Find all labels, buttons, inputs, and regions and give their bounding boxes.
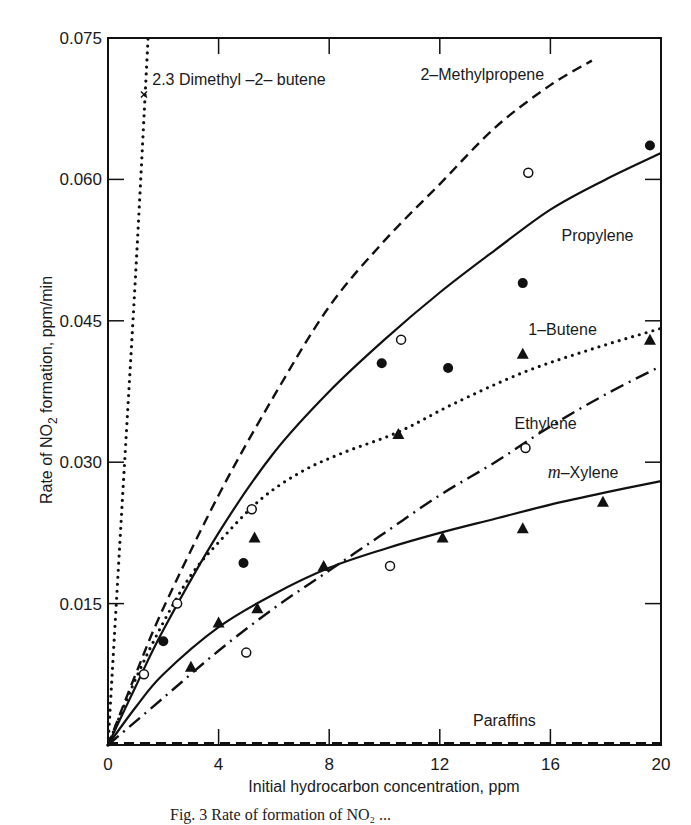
- curve-m-xylene: [108, 481, 661, 745]
- curve-1-butene: [108, 328, 661, 745]
- series-label-ethylene: Ethylene: [514, 415, 576, 432]
- plot-frame: [108, 38, 661, 745]
- x-tick-label: 8: [324, 755, 333, 774]
- marker-open-circle: [173, 599, 182, 608]
- y-tick-label: 0.060: [59, 170, 102, 189]
- y-tick-label: 0.030: [59, 453, 102, 472]
- marker-filled-triangle: [644, 334, 656, 345]
- x-tick-label: 4: [214, 755, 223, 774]
- marker-filled-circle: [377, 358, 387, 368]
- figure-caption: Fig. 3 Rate of formation of NO₂ ...: [170, 806, 391, 824]
- axis-ticks: 0481216200.0150.0300.0450.0600.075: [59, 29, 670, 774]
- marker-open-circle: [247, 505, 256, 514]
- marker-filled-triangle: [213, 616, 225, 627]
- x-tick-label: 20: [652, 755, 671, 774]
- marker-open-circle: [139, 670, 148, 679]
- x-tick-label: 16: [541, 755, 560, 774]
- series-label-2-3-dimethyl-2-butene: 2.3 Dimethyl –2– butene: [152, 71, 326, 88]
- series-label-2-methylpropene: 2–Methylpropene: [420, 66, 544, 83]
- marker-filled-triangle: [318, 560, 330, 571]
- y-tick-label: 0.045: [59, 312, 102, 331]
- y-axis-label: Rate of NO2 formation, ppm/min: [38, 276, 60, 504]
- marker-open-circle: [521, 444, 530, 453]
- series-label-paraffins: Paraffins: [473, 712, 536, 729]
- marker-open-circle: [524, 168, 533, 177]
- curve-ethylene: [108, 366, 661, 745]
- series-label-propylene: Propylene: [561, 227, 633, 244]
- marker-filled-triangle: [249, 532, 261, 543]
- x-axis-label: Initial hydrocarbon concentration, ppm: [248, 778, 519, 795]
- marker-open-circle: [397, 335, 406, 344]
- x-tick-label: 0: [103, 755, 112, 774]
- marker-open-circle: [242, 648, 251, 657]
- series-label-m-xylene: m–Xylene: [548, 462, 619, 482]
- x-tick-label: 12: [430, 755, 449, 774]
- marker-filled-triangle: [517, 348, 529, 359]
- marker-filled-circle: [645, 140, 655, 150]
- marker-open-circle: [386, 561, 395, 570]
- marker-filled-circle: [518, 278, 528, 288]
- series-curves: [108, 38, 661, 745]
- chart: 0481216200.0150.0300.0450.0600.075 2.3 D…: [0, 0, 691, 825]
- series-label-1-butene: 1–Butene: [528, 321, 597, 338]
- marker-filled-triangle: [185, 661, 197, 672]
- marker-filled-triangle: [597, 496, 609, 507]
- curve-2-methylpropene: [108, 61, 592, 745]
- marker-filled-triangle: [251, 602, 263, 613]
- plot-border: [108, 38, 661, 745]
- marker-filled-circle: [443, 363, 453, 373]
- marker-filled-triangle: [517, 522, 529, 533]
- data-markers: [139, 92, 655, 679]
- marker-filled-circle: [238, 558, 248, 568]
- y-tick-label: 0.075: [59, 29, 102, 48]
- series-labels: 2.3 Dimethyl –2– butene2–MethylpropenePr…: [152, 66, 633, 729]
- curve-2-3-dimethyl-2-butene: [108, 38, 148, 745]
- y-tick-label: 0.015: [59, 595, 102, 614]
- marker-filled-circle: [158, 636, 168, 646]
